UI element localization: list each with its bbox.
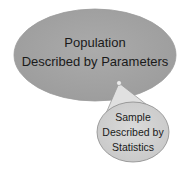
population-label-line1: Population	[64, 35, 125, 50]
population-label-line2: Described by Parameters	[22, 54, 169, 69]
cone-tip	[117, 81, 122, 86]
sample-label-line3: Statistics	[112, 141, 154, 153]
sample-label-line1: Sample	[115, 111, 151, 123]
sample-label-line2: Described by	[102, 126, 164, 138]
population-sample-diagram: Population Described by Parameters Sampl…	[0, 0, 185, 169]
